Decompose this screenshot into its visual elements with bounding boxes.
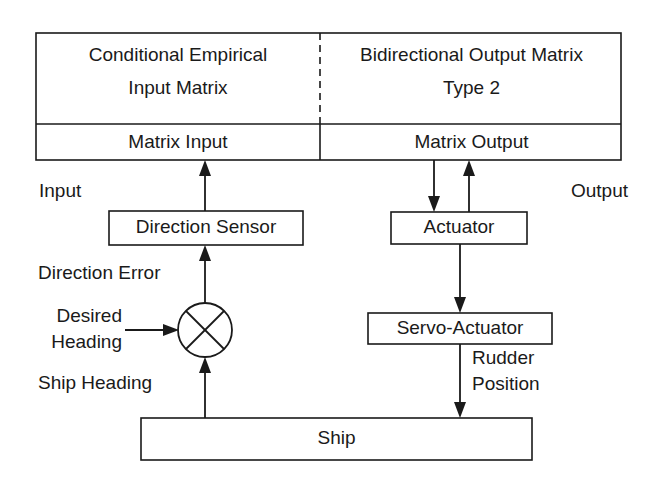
- ship-label: Ship: [141, 427, 532, 449]
- matrix-output-footer-label: Matrix Output: [324, 131, 619, 153]
- desired-heading-label-line1: Desired: [30, 305, 122, 327]
- arrowhead-actuator-to-servo-actuator: [454, 297, 466, 313]
- arrowhead-desired-heading-to-junction: [163, 324, 179, 336]
- arrowhead-ship-to-junction: [199, 357, 211, 373]
- arrowhead-matrix-output-to-actuator: [428, 196, 440, 212]
- matrix-left-cell-title-line2: Input Matrix: [40, 77, 316, 99]
- matrix-right-cell-title-line2: Type 2: [324, 77, 619, 99]
- ship-heading-label: Ship Heading: [38, 372, 218, 394]
- arrowhead-sensor-to-matrix-input: [199, 160, 211, 176]
- rudder-position-label-line2: Position: [472, 373, 602, 395]
- actuator-label: Actuator: [391, 216, 527, 238]
- servo-actuator-label: Servo-Actuator: [368, 317, 552, 339]
- matrix-left-cell-title-line1: Conditional Empirical: [40, 44, 316, 66]
- arrowhead-servo-actuator-to-ship: [454, 402, 466, 418]
- desired-heading-label-line2: Heading: [30, 331, 122, 353]
- diagram-graphics: [0, 0, 650, 491]
- matrix-right-cell-title-line1: Bidirectional Output Matrix: [324, 44, 619, 66]
- arrowhead-junction-to-sensor: [199, 245, 211, 261]
- diagram-canvas: Conditional Empirical Input Matrix Bidir…: [0, 0, 650, 491]
- matrix-input-footer-label: Matrix Input: [40, 131, 316, 153]
- direction-sensor-label: Direction Sensor: [109, 216, 303, 238]
- direction-error-label: Direction Error: [38, 262, 218, 284]
- rudder-position-label-line1: Rudder: [472, 347, 602, 369]
- output-side-label: Output: [500, 180, 628, 202]
- input-side-label: Input: [39, 180, 159, 202]
- arrowhead-actuator-to-matrix-output: [463, 160, 475, 176]
